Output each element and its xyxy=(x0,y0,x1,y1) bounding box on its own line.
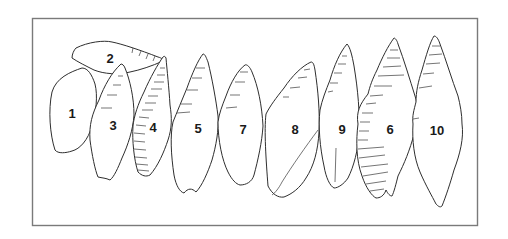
specimen-7: 7 xyxy=(218,65,263,185)
specimen-6: 6 xyxy=(357,38,417,198)
specimen-8: 8 xyxy=(265,62,319,197)
specimen-label-9: 9 xyxy=(338,122,345,137)
specimen-5: 5 xyxy=(171,54,218,193)
specimen-1: 1 xyxy=(50,68,97,153)
specimen-label-2: 2 xyxy=(106,51,113,66)
specimen-3: 3 xyxy=(90,64,134,180)
specimen-10: 10 xyxy=(413,36,463,207)
specimen-label-5: 5 xyxy=(194,121,201,136)
specimen-label-6: 6 xyxy=(386,122,393,137)
specimen-label-4: 4 xyxy=(149,120,157,135)
specimen-figure: 1 2 3 4 xyxy=(0,0,508,239)
specimen-9: 9 xyxy=(319,44,359,188)
specimen-label-7: 7 xyxy=(239,122,246,137)
specimen-label-10: 10 xyxy=(430,123,444,138)
specimen-label-8: 8 xyxy=(291,122,298,137)
specimen-label-1: 1 xyxy=(68,106,75,121)
specimen-label-3: 3 xyxy=(109,118,116,133)
specimen-4: 4 xyxy=(133,56,172,176)
